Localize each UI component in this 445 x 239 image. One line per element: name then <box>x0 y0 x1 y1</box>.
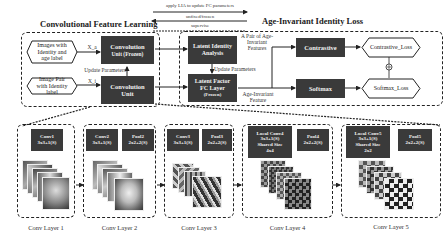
conv3-params: 3x3+1(S) <box>174 140 193 146</box>
softmax-loss: Softmax_Loss <box>361 78 421 99</box>
pool4-block: Pool4 2x2+2(S) <box>297 129 329 151</box>
convolution-unit-frozen-line1: Convolution <box>110 43 144 50</box>
convolution-unit-line1: Convolution <box>110 83 144 90</box>
local-conv5-size: 2x2 <box>364 148 372 154</box>
lffc-line2: FC Layer <box>200 85 225 92</box>
conv2-params: 3x3+1(S) <box>93 140 112 146</box>
lia-line1: Latent Identity <box>193 43 232 50</box>
contrastive-loss-label: Contrastive_Loss <box>361 37 421 58</box>
pool2-params: 2x2+2(S) <box>129 140 148 146</box>
softmax-block: Softmax <box>296 79 345 98</box>
age-invariant-feature-label: Age-Invariant Feature <box>240 91 276 103</box>
lia-line2: Analysis <box>202 50 224 57</box>
conv1-params: 3x3+1(S) <box>38 140 57 146</box>
convolution-unit: Convolution Unit <box>101 76 154 104</box>
input-images-identity-age-label: Images with Identity and age label <box>26 40 78 64</box>
contrastive-label: Contrastive <box>304 44 337 51</box>
latent-factor-fc-layer: Latent Factor FC Layer (Frozen) <box>188 74 237 102</box>
conv2-block: Conv2 3x3+1(S) <box>86 129 118 151</box>
update-parameters-left: Update Parameters <box>74 67 126 73</box>
local-conv4-size: 4x4 <box>266 148 274 154</box>
conv-layer-2-label: Conv Layer 2 <box>83 224 156 231</box>
conv-layer-3-label: Conv Layer 3 <box>164 224 234 231</box>
lffc-line1: Latent Factor <box>195 78 231 85</box>
convolution-unit-frozen: Convolution Unit (Frozen) <box>101 36 154 64</box>
input-image-pair-label: Image Pair with Identity label <box>26 77 78 95</box>
contrastive-loss: Contrastive_Loss <box>361 37 421 58</box>
softmax-label: Softmax <box>309 85 332 92</box>
pool5-params: 2x2+2(S) <box>406 140 425 146</box>
feature-map-stack-2 <box>92 160 150 212</box>
pool3-block: Pool3 2x2+2(S) <box>202 129 232 151</box>
input-images-identity-age: Images with Identity and age label <box>26 40 78 64</box>
conv-layer-1-label: Conv Layer 1 <box>17 224 75 231</box>
latent-identity-analysis: Latent Identity Analysis <box>188 36 237 64</box>
pool2-block: Pool2 2x2+2(S) <box>122 129 154 151</box>
pair-features-label: A Pair of Age-Invariant Features <box>241 33 273 51</box>
contrastive-block: Contrastive <box>296 38 345 57</box>
convolution-unit-line2: Unit <box>121 90 133 97</box>
feature-map-stack-1 <box>22 160 72 212</box>
convolution-unit-frozen-line2: Unit (Frozen) <box>112 51 144 57</box>
x-i-label: X_i <box>86 78 98 84</box>
feature-map-stack-5 <box>358 160 422 212</box>
input-image-pair: Image Pair with Identity label <box>26 77 78 95</box>
conv-layer-5-label: Conv Layer 5 <box>341 223 441 230</box>
local-conv5-block: Local Conv5 3x3+1(S) Shared Size 2x2 <box>346 126 390 158</box>
feature-map-stack-3 <box>172 163 228 211</box>
conv3-block: Conv3 3x3+1(S) <box>167 129 199 151</box>
local-conv4-block: Local Conv4 3x3+1(S) Shared Size 4x4 <box>248 126 292 158</box>
pool4-params: 2x2+2(S) <box>304 140 323 146</box>
conv-layer-4-label: Conv Layer 4 <box>242 224 333 231</box>
feature-map-stack-4 <box>260 160 320 212</box>
update-parameters-right: Update Parameters <box>214 66 274 72</box>
pool5-block: Pool5 2x2+2(S) <box>398 129 432 151</box>
conv1-block: Conv1 3x3+1(S) <box>31 129 63 151</box>
lffc-line3: (Frozen) <box>204 92 222 98</box>
softmax-loss-label: Softmax_Loss <box>361 78 421 99</box>
x-a-label: X_a <box>86 44 98 50</box>
pool3-params: 2x2+2(S) <box>208 140 227 146</box>
